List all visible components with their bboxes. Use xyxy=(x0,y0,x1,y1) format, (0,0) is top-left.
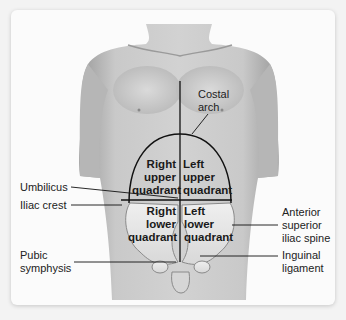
quadrant-left-upper: Left upper quadrant xyxy=(183,158,233,197)
label-line: Costal xyxy=(198,88,229,101)
label-line: arch xyxy=(198,101,229,114)
label-line: iliac spine xyxy=(282,232,330,245)
quadrant-label-line: lower xyxy=(128,218,176,231)
quadrant-label-line: upper xyxy=(132,171,176,184)
label-anterior-superior-iliac-spine: Anterior superior iliac spine xyxy=(282,206,330,245)
quadrant-label-line: quadrant xyxy=(184,231,234,244)
label-line: ligament xyxy=(282,262,324,275)
label-line: Pubic xyxy=(20,249,71,262)
quadrant-label-line: upper xyxy=(183,171,233,184)
quadrant-label-line: Left xyxy=(184,205,234,218)
label-line: Inguinal xyxy=(282,249,324,262)
label-pubic-symphysis: Pubic symphysis xyxy=(20,249,71,275)
label-line: symphysis xyxy=(20,262,71,275)
quadrant-label-line: lower xyxy=(184,218,234,231)
label-line: Anterior xyxy=(282,206,330,219)
label-line: superior xyxy=(282,219,330,232)
torso-outline xyxy=(79,24,279,300)
label-iliac-crest: Iliac crest xyxy=(20,199,66,212)
label-umbilicus: Umbilicus xyxy=(20,181,68,194)
quadrant-label-line: quadrant xyxy=(132,184,176,197)
quadrant-label-line: Right xyxy=(128,205,176,218)
quadrant-label-line: Right xyxy=(132,158,176,171)
quadrant-label-line: quadrant xyxy=(183,184,233,197)
quadrant-label-line: Left xyxy=(183,158,233,171)
quadrant-left-lower: Left lower quadrant xyxy=(184,205,234,244)
label-costal-arch: Costal arch xyxy=(198,88,229,114)
quadrant-right-upper: Right upper quadrant xyxy=(132,158,176,197)
quadrant-label-line: quadrant xyxy=(128,231,176,244)
label-inguinal-ligament: Inguinal ligament xyxy=(282,249,324,275)
quadrant-right-lower: Right lower quadrant xyxy=(128,205,176,244)
